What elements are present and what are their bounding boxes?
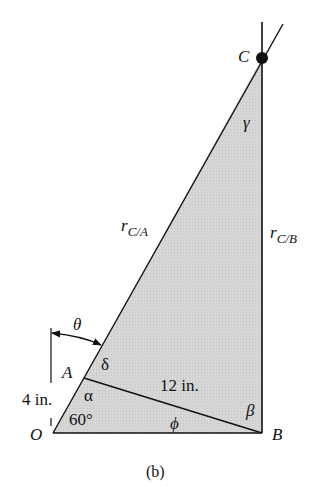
label-b: B <box>272 425 283 444</box>
figure-caption: (b) <box>146 463 165 481</box>
dimension-oa: 4 in. <box>22 390 52 409</box>
triangle-diagram: C A O B γ θ δ α 60° ϕ β 4 in. 12 in. rC/… <box>0 0 320 487</box>
vector-r-cb-sub: C/B <box>277 231 297 246</box>
label-angle-o: 60° <box>69 410 93 429</box>
dimension-ab: 12 in. <box>160 376 199 395</box>
vector-r-cb: rC/B <box>270 223 297 246</box>
theta-arc-icon <box>52 333 101 345</box>
label-a: A <box>61 363 73 382</box>
point-c-dot <box>256 52 268 64</box>
vector-r-ca-sub: C/A <box>128 224 148 239</box>
vector-r-ca: rC/A <box>121 216 148 239</box>
label-alpha: α <box>84 386 93 405</box>
label-c: C <box>238 47 250 66</box>
label-o: O <box>30 425 42 444</box>
label-phi: ϕ <box>170 414 179 433</box>
label-delta: δ <box>101 355 109 374</box>
label-beta: β <box>245 401 255 420</box>
label-theta: θ <box>73 315 81 334</box>
